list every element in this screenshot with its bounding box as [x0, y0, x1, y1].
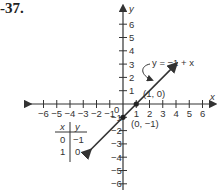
- y-tick-label: −6: [111, 178, 122, 189]
- y-tick-label: 1: [129, 85, 134, 96]
- y-tick-label: 3: [129, 59, 134, 70]
- point-label-0-neg1: (0, −1): [131, 118, 159, 129]
- x-tick-label: 5: [187, 108, 192, 119]
- table-cell: 0: [60, 134, 65, 145]
- point-label-1-0: (1, 0): [143, 88, 165, 99]
- coordinate-graph: −6−5−4−3−2−1123456 −6−5−4−3−2−1123456 y …: [0, 0, 223, 193]
- table-cell: 0: [75, 146, 80, 157]
- x-tick-label: −5: [51, 108, 62, 119]
- x-axis-label: x: [209, 91, 216, 102]
- equation-pointer-arrow: [143, 64, 152, 80]
- point-1-0: [134, 101, 139, 106]
- y-tick-label: 2: [129, 72, 134, 83]
- y-tick-label: −5: [111, 165, 122, 176]
- x-tick-label: −4: [65, 108, 76, 119]
- y-tick-label: −4: [111, 152, 122, 163]
- y-tick-label: 6: [129, 19, 134, 30]
- x-tick-label: 6: [200, 108, 205, 119]
- table-header-y: y: [74, 121, 81, 132]
- y-tick-label: −3: [111, 138, 122, 149]
- table-cell: −1: [73, 134, 84, 145]
- table-header-x: x: [59, 121, 66, 132]
- x-tick-label: −2: [91, 108, 102, 119]
- x-tick-label: 3: [160, 108, 165, 119]
- equation-label: y = −1 + x: [152, 57, 194, 68]
- y-tick-label: 5: [129, 32, 134, 43]
- point-0-neg1: [120, 115, 125, 120]
- x-tick-label: −3: [78, 108, 89, 119]
- x-tick-label: 4: [174, 108, 179, 119]
- table-cell: 1: [60, 146, 65, 157]
- x-tick-label: −6: [38, 108, 49, 119]
- y-tick-label: 4: [129, 45, 134, 56]
- origin-label: 0: [114, 104, 119, 115]
- y-axis-label: y: [128, 3, 135, 14]
